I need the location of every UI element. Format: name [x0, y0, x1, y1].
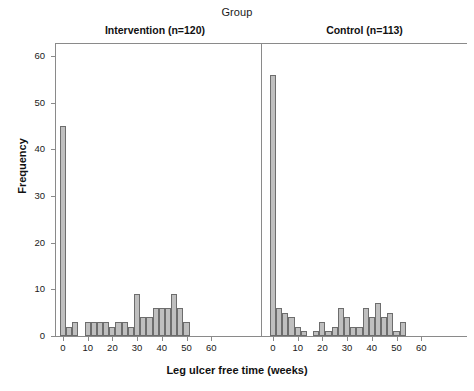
y-axis-tick-mark: [51, 56, 55, 57]
y-axis-title: Frequency: [16, 106, 28, 226]
y-axis-tick-label: 50: [19, 97, 45, 108]
x-axis-tick-label: 0: [261, 342, 285, 353]
x-axis-tick-mark: [372, 337, 373, 341]
x-axis-tick-mark: [322, 337, 323, 341]
x-axis-tick-mark: [162, 337, 163, 341]
histogram-bar: [183, 322, 189, 336]
x-axis-tick-mark: [397, 337, 398, 341]
x-axis-tick-label: 10: [286, 342, 310, 353]
y-axis-tick-label: 40: [19, 143, 45, 154]
x-axis-line: [261, 336, 467, 337]
y-axis-tick-mark: [51, 149, 55, 150]
y-axis-tick-label: 0: [19, 330, 45, 341]
x-axis-tick-mark: [347, 337, 348, 341]
x-axis-tick-label: 50: [385, 342, 409, 353]
x-axis-tick-mark: [137, 337, 138, 341]
y-axis-tick-mark: [51, 243, 55, 244]
histogram-bar: [270, 75, 276, 336]
x-axis-tick-label: 60: [409, 342, 433, 353]
y-axis-tick-label: 30: [19, 190, 45, 201]
x-axis-title: Leg ulcer free time (weeks): [0, 364, 474, 376]
x-axis-tick-label: 50: [175, 342, 199, 353]
x-axis-tick-mark: [298, 337, 299, 341]
x-axis-tick-label: 20: [100, 342, 124, 353]
x-axis-tick-label: 60: [199, 342, 223, 353]
panel-divider-line: [261, 43, 262, 337]
panel-title-control: Control (n=113): [262, 24, 467, 36]
y-axis-tick-mark: [51, 196, 55, 197]
x-axis-tick-mark: [63, 337, 64, 341]
y-axis-tick-label: 20: [19, 237, 45, 248]
panel-title-intervention: Intervention (n=120): [55, 24, 255, 36]
x-axis-tick-label: 0: [51, 342, 75, 353]
histogram-bar: [72, 322, 78, 336]
x-axis-tick-mark: [88, 337, 89, 341]
y-axis-tick-mark: [51, 289, 55, 290]
x-axis-tick-label: 30: [125, 342, 149, 353]
y-axis-line: [55, 43, 56, 337]
histogram-bar: [400, 322, 406, 336]
histogram-bar: [60, 126, 66, 336]
x-axis-tick-mark: [187, 337, 188, 341]
y-axis-tick-label: 60: [19, 50, 45, 61]
x-axis-line: [55, 336, 261, 337]
chart-title: Group: [0, 6, 474, 18]
x-axis-tick-label: 10: [76, 342, 100, 353]
x-axis-tick-mark: [273, 337, 274, 341]
histogram-figure: Group Intervention (n=120) Control (n=11…: [0, 0, 474, 391]
x-axis-tick-mark: [112, 337, 113, 341]
x-axis-tick-mark: [211, 337, 212, 341]
x-axis-tick-label: 30: [335, 342, 359, 353]
x-axis-tick-label: 40: [360, 342, 384, 353]
y-axis-tick-label: 10: [19, 283, 45, 294]
x-axis-tick-label: 20: [310, 342, 334, 353]
x-axis-tick-mark: [421, 337, 422, 341]
x-axis-tick-label: 40: [150, 342, 174, 353]
y-axis-tick-mark: [51, 103, 55, 104]
histogram-bar: [301, 331, 307, 336]
